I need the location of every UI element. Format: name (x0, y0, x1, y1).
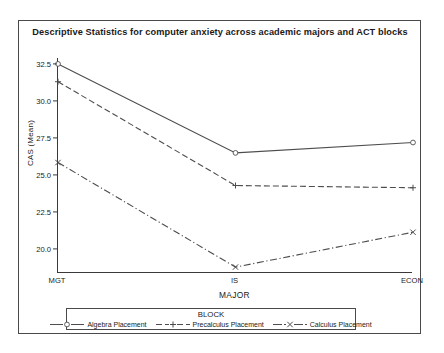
chart-title: Descriptive Statistics for computer anxi… (30, 26, 410, 38)
legend-item-label: Precalculus Placement (193, 321, 264, 328)
legend: BLOCK Algebra PlacementPrecalculus Place… (66, 308, 356, 330)
y-tick-mark (53, 175, 57, 176)
y-axis-title: CAS (Mean) (26, 120, 35, 166)
legend-item: Algebra Placement (50, 320, 146, 329)
legend-swatch-circle-open-icon (50, 320, 84, 329)
data-point-marker (287, 322, 292, 327)
legend-item-label: Calculus Placement (310, 321, 372, 328)
data-point-marker (411, 140, 416, 145)
legend-items: Algebra PlacementPrecalculus PlacementCa… (67, 320, 355, 329)
legend-swatch-plus-icon (156, 320, 190, 329)
legend-item: Precalculus Placement (156, 320, 264, 329)
chart-screenshot: Descriptive Statistics for computer anxi… (0, 0, 444, 353)
data-point-marker (233, 183, 239, 189)
y-tick-mark (53, 137, 57, 138)
x-tick-label: IS (231, 276, 238, 285)
y-tick-label: 22.5 (36, 208, 51, 217)
legend-swatch-x-cross-icon (273, 320, 307, 329)
y-tick-label: 30.0 (36, 97, 51, 106)
y-tick-mark (53, 212, 57, 213)
y-tick-label: 25.0 (36, 171, 51, 180)
y-tick-mark (53, 249, 57, 250)
x-axis-title: MAJOR (57, 290, 412, 300)
x-tick-label: MGT (49, 276, 66, 285)
y-tick-label: 27.5 (36, 134, 51, 143)
y-tick-label: 32.5 (36, 59, 51, 68)
series-line (58, 163, 413, 268)
data-point-marker (55, 160, 60, 165)
data-point-marker (170, 322, 176, 328)
data-point-marker (233, 150, 238, 155)
series-line (58, 64, 413, 153)
legend-item: Calculus Placement (273, 320, 372, 329)
legend-item-label: Algebra Placement (87, 321, 146, 328)
y-tick-mark (53, 63, 57, 64)
data-point-marker (65, 322, 70, 327)
y-tick-label: 20.0 (36, 245, 51, 254)
plot-area (57, 58, 412, 273)
series-line (58, 82, 413, 188)
x-tick-label: ECON (401, 276, 423, 285)
y-tick-mark (53, 100, 57, 101)
plot-lines (58, 58, 413, 273)
legend-title: BLOCK (67, 310, 355, 319)
